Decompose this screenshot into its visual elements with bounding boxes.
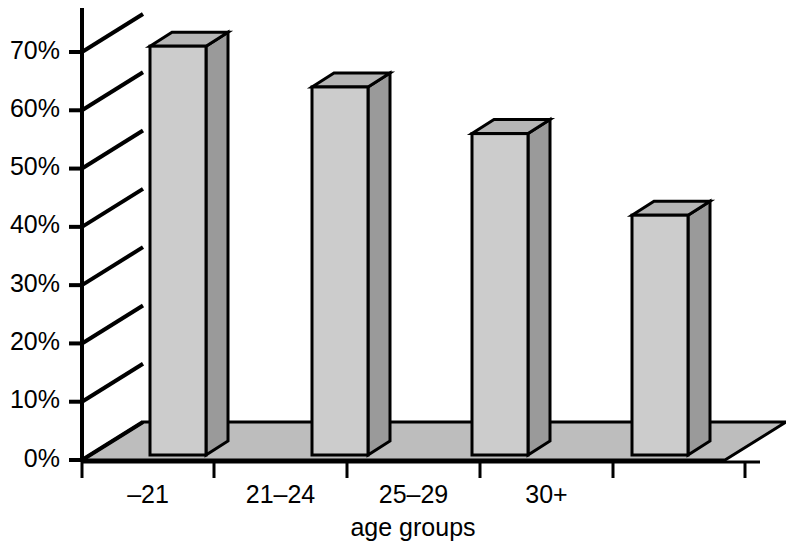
y-axis-tick-label: 0%	[24, 444, 60, 472]
y-axis-tick-label: 30%	[10, 269, 60, 297]
bar-side-face	[528, 120, 550, 455]
chart-canvas: 70%60%50%40%30%20%10%0% –2121–2425–2930+…	[0, 0, 786, 544]
x-axis-title: age groups	[350, 513, 475, 541]
y-axis-tick-label: 40%	[10, 210, 60, 238]
y-axis-tick-label: 10%	[10, 385, 60, 413]
bar-side-face	[368, 73, 390, 455]
x-axis-tick-label: 21–24	[246, 480, 316, 508]
bar-column	[472, 120, 550, 455]
bar-column	[312, 73, 390, 455]
x-axis-tick-label: 25–29	[379, 480, 449, 508]
bar-side-face	[688, 201, 710, 455]
bar-chart-figure: 70%60%50%40%30%20%10%0% –2121–2425–2930+…	[0, 0, 786, 544]
bar-side-face	[206, 32, 228, 455]
y-axis-tick-label: 20%	[10, 327, 60, 355]
bar-front-face	[312, 87, 368, 455]
bar-front-face	[632, 215, 688, 455]
x-axis-tick-label: –21	[127, 480, 169, 508]
y-axis-tick-label: 70%	[10, 36, 60, 64]
bar-column	[632, 201, 710, 455]
bar-front-face	[150, 46, 206, 455]
bar-column	[150, 32, 228, 455]
x-axis-tick-label: 30+	[525, 480, 567, 508]
y-axis-tick-label: 60%	[10, 94, 60, 122]
y-axis-tick-label: 50%	[10, 152, 60, 180]
bar-front-face	[472, 134, 528, 455]
